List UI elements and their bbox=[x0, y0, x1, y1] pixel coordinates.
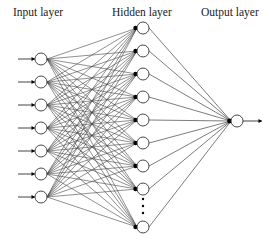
input-arrowhead-icon bbox=[32, 57, 36, 61]
input-arrowhead-icon bbox=[32, 149, 36, 153]
hidden-node bbox=[137, 137, 149, 149]
ellipsis-dot-icon bbox=[142, 205, 144, 207]
ellipsis-dot-icon bbox=[142, 198, 144, 200]
hidden-output-edge bbox=[149, 121, 231, 189]
hidden-node bbox=[137, 45, 149, 57]
input-arrowhead-icon bbox=[32, 195, 36, 199]
input-arrowhead-icon bbox=[32, 126, 36, 130]
hidden-node bbox=[137, 221, 149, 233]
hidden-node bbox=[137, 91, 149, 103]
input-hidden-edge bbox=[47, 28, 137, 174]
input-node bbox=[35, 99, 47, 111]
output-arrowhead-icon bbox=[259, 119, 263, 123]
hidden-output-edge bbox=[149, 121, 231, 143]
input-node bbox=[35, 76, 47, 88]
hidden-node bbox=[137, 160, 149, 172]
input-node bbox=[35, 168, 47, 180]
hidden-output-edge bbox=[149, 120, 231, 121]
input-hidden-edge bbox=[47, 166, 137, 197]
input-hidden-edge bbox=[47, 28, 137, 151]
input-hidden-edge bbox=[47, 189, 137, 197]
hidden-output-edge bbox=[149, 121, 231, 227]
hidden-output-edge bbox=[149, 51, 231, 121]
input-hidden-edge bbox=[47, 28, 137, 105]
input-arrowhead-icon bbox=[32, 172, 36, 176]
input-hidden-edge bbox=[47, 28, 137, 59]
input-arrowhead-icon bbox=[32, 103, 36, 107]
neural-network-diagram: Input layer Hidden layer Output layer bbox=[0, 0, 277, 241]
hidden-output-edge bbox=[149, 97, 231, 121]
neurons bbox=[35, 22, 243, 233]
input-hidden-edge bbox=[47, 28, 137, 197]
input-node bbox=[35, 122, 47, 134]
input-node bbox=[35, 145, 47, 157]
hidden-output-edge bbox=[149, 121, 231, 166]
input-hidden-edge bbox=[47, 51, 137, 197]
connection-edges bbox=[18, 28, 262, 227]
hidden-node bbox=[137, 22, 149, 34]
input-hidden-edge bbox=[47, 28, 137, 82]
arrowheads bbox=[32, 26, 263, 229]
hidden-output-edge bbox=[149, 28, 231, 121]
input-node bbox=[35, 53, 47, 65]
output-node bbox=[231, 115, 243, 127]
input-hidden-edge bbox=[47, 120, 137, 197]
input-node bbox=[35, 191, 47, 203]
hidden-node bbox=[137, 68, 149, 80]
hidden-output-edge bbox=[149, 74, 231, 121]
input-hidden-edge bbox=[47, 74, 137, 197]
network-graph bbox=[0, 0, 277, 241]
hidden-node bbox=[137, 183, 149, 195]
input-arrowhead-icon bbox=[32, 80, 36, 84]
hidden-node bbox=[137, 114, 149, 126]
ellipsis-dot-icon bbox=[142, 212, 144, 214]
